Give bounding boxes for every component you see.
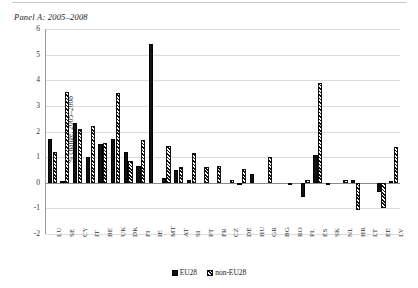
bar-se-eu28 xyxy=(60,181,64,183)
bar-sk-eu28 xyxy=(326,183,330,185)
bar-si-eu28 xyxy=(187,180,191,183)
x-tick-label-lu: LU xyxy=(55,227,63,237)
x-tick-label-sk: SK xyxy=(333,228,341,237)
bar-uk-non-eu28 xyxy=(116,93,120,183)
legend-label: non-EU28 xyxy=(215,268,246,277)
bar-hr-non-eu28 xyxy=(356,183,360,210)
bar-be-eu28 xyxy=(98,144,102,182)
y-tick-label: 3 xyxy=(24,101,40,110)
x-tick-label-lv: LV xyxy=(397,228,405,237)
gridline xyxy=(46,29,400,30)
x-tick-label-gr: GR xyxy=(270,227,278,237)
y-tick-label: 2 xyxy=(24,127,40,136)
gridline xyxy=(46,132,400,133)
bar-es-non-eu28 xyxy=(318,83,322,183)
y-tick-label: 5 xyxy=(24,50,40,59)
y-tick-label: 1 xyxy=(24,152,40,161)
bar-ie-eu28 xyxy=(149,44,153,182)
x-tick-label-ee: EE xyxy=(384,228,392,237)
x-tick-label-pt: PT xyxy=(207,229,215,237)
bar-at-eu28 xyxy=(174,170,178,183)
bar-be-non-eu28 xyxy=(103,143,107,183)
bar-de-eu28 xyxy=(237,183,241,186)
legend-label: EU28 xyxy=(180,268,198,277)
zero-line xyxy=(46,183,400,184)
x-tick-label-pl: PL xyxy=(308,229,316,237)
bar-hu-eu28 xyxy=(250,174,254,183)
legend-swatch-icon xyxy=(207,270,213,276)
x-tick-label-uk: UK xyxy=(119,227,127,237)
x-tick-label-it: IT xyxy=(93,230,101,237)
x-tick-label-ro: RO xyxy=(296,227,304,237)
plot-area: 6543210-1-2 % change, 2005–2008 LUSECYIT… xyxy=(46,29,400,234)
x-tick-label-be: BE xyxy=(106,228,114,237)
y-tick-label: -2 xyxy=(24,229,40,238)
bar-mt-eu28 xyxy=(162,178,166,183)
bar-cy-non-eu28 xyxy=(78,129,82,183)
bar-ee-eu28 xyxy=(377,183,381,192)
bar-gr-non-eu28 xyxy=(268,157,272,183)
legend-item-non-eu28[interactable]: non-EU28 xyxy=(207,268,246,277)
gridline xyxy=(46,106,400,107)
y-tick-label: -1 xyxy=(24,203,40,212)
bar-hr-eu28 xyxy=(351,180,355,183)
bar-dk-eu28 xyxy=(124,152,128,183)
bar-lu-non-eu28 xyxy=(53,152,57,183)
bar-at-non-eu28 xyxy=(179,167,183,182)
gridline xyxy=(46,208,400,209)
bar-fi-non-eu28 xyxy=(141,140,145,182)
bar-pt-non-eu28 xyxy=(204,167,208,182)
panel-title: Panel A: 2005–2008 xyxy=(14,12,88,22)
gridline xyxy=(46,55,400,56)
x-tick-label-dk: DK xyxy=(131,227,139,237)
x-tick-label-fi: FI xyxy=(144,231,152,237)
bar-mt-non-eu28 xyxy=(166,146,170,183)
x-tick-label-cz: CZ xyxy=(232,228,240,237)
bar-ro-eu28 xyxy=(288,183,292,185)
bar-si-non-eu28 xyxy=(192,153,196,182)
x-tick-label-mt: MT xyxy=(169,226,177,237)
bar-it-eu28 xyxy=(86,157,90,183)
bar-de-non-eu28 xyxy=(242,169,246,183)
bar-fi-eu28 xyxy=(136,166,140,183)
bar-es-eu28 xyxy=(313,155,317,183)
x-tick-label-fr: FR xyxy=(220,228,228,237)
x-tick-label-cy: CY xyxy=(81,227,89,237)
x-tick-label-hr: HR xyxy=(359,227,367,237)
bar-pl-eu28 xyxy=(301,183,305,197)
bar-ee-non-eu28 xyxy=(381,183,385,209)
x-tick-label-si: SI xyxy=(194,231,202,237)
bar-fr-non-eu28 xyxy=(217,166,221,183)
bar-lu-eu28 xyxy=(48,139,52,183)
gridline xyxy=(46,80,400,81)
bar-uk-eu28 xyxy=(111,139,115,183)
x-tick-label-es: ES xyxy=(321,229,329,237)
x-tick-label-lt: LT xyxy=(371,229,379,237)
top-divider xyxy=(12,2,406,3)
x-tick-label-at: AT xyxy=(182,228,190,237)
y-tick-label: 0 xyxy=(24,178,40,187)
x-tick-label-hu: HU xyxy=(258,227,266,237)
chart-figure: Panel A: 2005–2008 6543210-1-2 % change,… xyxy=(0,0,418,288)
x-tick-label-ie: IE xyxy=(156,230,164,237)
y-tick-label: 6 xyxy=(24,24,40,33)
x-tick-label-bg: BG xyxy=(283,227,291,237)
bar-cy-eu28 xyxy=(73,123,77,183)
bar-dk-non-eu28 xyxy=(128,161,132,183)
bar-nl-non-eu28 xyxy=(343,180,347,183)
legend-swatch-icon xyxy=(172,270,178,276)
x-tick-label-de: DE xyxy=(245,227,253,237)
bar-se-non-eu28 xyxy=(65,92,69,183)
x-tick-label-se: SE xyxy=(68,229,76,237)
bar-it-non-eu28 xyxy=(91,126,95,182)
bar-lv-non-eu28 xyxy=(394,147,398,183)
bar-cz-non-eu28 xyxy=(230,180,234,183)
legend-item-eu28[interactable]: EU28 xyxy=(172,268,198,277)
chart-legend: EU28non-EU28 xyxy=(0,268,418,277)
x-tick-label-nl: NL xyxy=(346,227,354,237)
bar-lv-eu28 xyxy=(389,181,393,183)
y-tick-label: 4 xyxy=(24,75,40,84)
bar-pl-non-eu28 xyxy=(305,180,309,183)
